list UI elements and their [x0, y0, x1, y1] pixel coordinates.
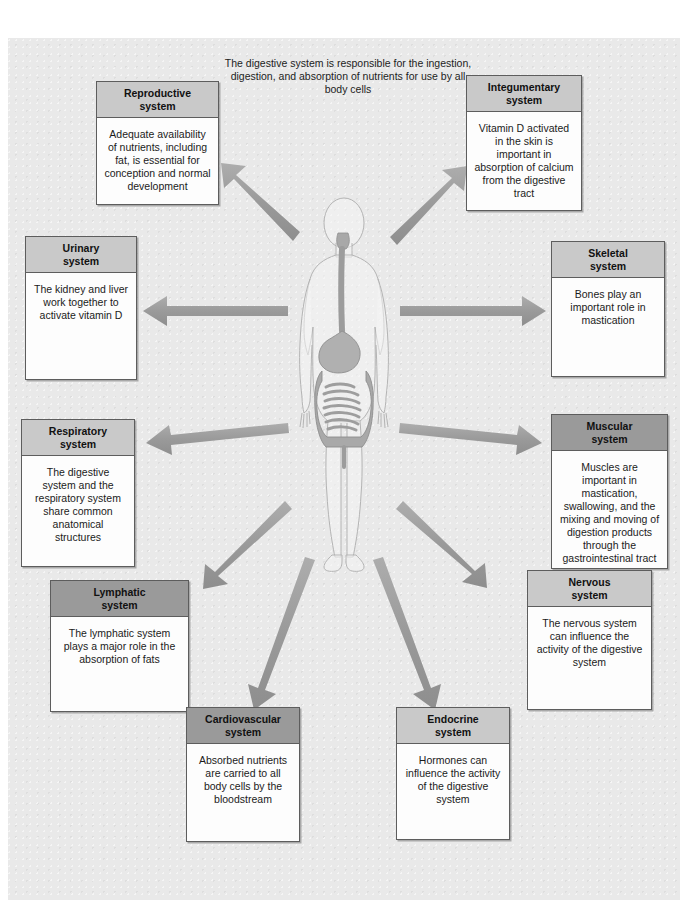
system-title-line2: system — [225, 726, 261, 738]
system-title-line1: Cardiovascular — [205, 713, 281, 725]
system-title-line1: Integumentary — [488, 81, 560, 93]
system-box-endocrine[interactable]: Endocrine system Hormones can influence … — [396, 707, 510, 840]
system-box-body: Vitamin D activated in the skin is impor… — [467, 112, 581, 204]
system-box-header: Respiratory system — [22, 420, 134, 456]
system-box-integumentary[interactable]: Integumentary system Vitamin D activated… — [466, 75, 582, 211]
system-title-line2: system — [63, 255, 99, 267]
right-foot-outline — [346, 555, 364, 571]
intro-caption: The digestive system is responsible for … — [222, 57, 474, 96]
system-title-line2: system — [591, 433, 627, 445]
system-box-header: Muscular system — [552, 415, 667, 451]
system-box-header: Endocrine system — [397, 708, 509, 744]
system-box-nervous[interactable]: Nervous system The nervous system can in… — [527, 570, 652, 710]
system-box-body: The digestive system and the respiratory… — [22, 456, 134, 548]
system-box-header: Urinary system — [26, 237, 136, 273]
system-box-reproductive[interactable]: Reproductive system Adequate availabilit… — [96, 81, 219, 205]
system-box-body: Adequate availability of nutrients, incl… — [97, 118, 218, 197]
system-box-body: Muscles are important in mastication, sw… — [552, 451, 667, 569]
system-title-line2: system — [435, 726, 471, 738]
system-title-line1: Nervous — [568, 576, 610, 588]
left-hand-outline — [300, 411, 310, 428]
system-box-header: Nervous system — [528, 571, 651, 607]
system-box-header: Cardiovascular system — [187, 708, 299, 744]
left-foot-outline — [324, 555, 342, 571]
human-body-figure — [288, 195, 400, 575]
system-box-lymphatic[interactable]: Lymphatic system The lymphatic system pl… — [50, 580, 189, 712]
system-box-body: Bones play an important role in masticat… — [552, 278, 664, 331]
system-box-header: Lymphatic system — [51, 581, 188, 617]
system-box-cardiovascular[interactable]: Cardiovascular system Absorbed nutrients… — [186, 707, 300, 842]
system-title-line1: Urinary — [63, 242, 100, 254]
system-box-body: Absorbed nutrients are carried to all bo… — [187, 744, 299, 810]
system-title-line2: system — [571, 589, 607, 601]
system-title-line1: Skeletal — [588, 247, 628, 259]
system-title-line1: Respiratory — [49, 425, 107, 437]
system-box-urinary[interactable]: Urinary system The kidney and liver work… — [25, 236, 137, 380]
system-title-line1: Lymphatic — [93, 586, 145, 598]
system-box-header: Skeletal system — [552, 242, 664, 278]
system-box-body: The nervous system can influence the act… — [528, 607, 651, 673]
diagram-page: The digestive system is responsible for … — [0, 0, 688, 907]
system-title-line2: system — [139, 100, 175, 112]
left-arm-outline — [300, 279, 312, 413]
system-box-body: Hormones can influence the activity of t… — [397, 744, 509, 810]
system-box-muscular[interactable]: Muscular system Muscles are important in… — [551, 414, 668, 569]
system-title-line2: system — [590, 260, 626, 272]
right-hand-outline — [378, 411, 388, 428]
system-box-body: The kidney and liver work together to ac… — [26, 273, 136, 326]
system-title-line2: system — [60, 438, 96, 450]
system-box-skeletal[interactable]: Skeletal system Bones play an important … — [551, 241, 665, 377]
right-arm-outline — [376, 279, 388, 413]
system-title-line1: Reproductive — [124, 87, 191, 99]
system-title-line2: system — [506, 94, 542, 106]
system-box-body: The lymphatic system plays a major role … — [51, 617, 188, 670]
system-box-header: Integumentary system — [467, 76, 581, 112]
system-title-line1: Muscular — [586, 420, 632, 432]
esophagus — [341, 249, 342, 331]
system-box-header: Reproductive system — [97, 82, 218, 118]
system-box-respiratory[interactable]: Respiratory system The digestive system … — [21, 419, 135, 567]
system-title-line1: Endocrine — [427, 713, 478, 725]
system-title-line2: system — [101, 599, 137, 611]
